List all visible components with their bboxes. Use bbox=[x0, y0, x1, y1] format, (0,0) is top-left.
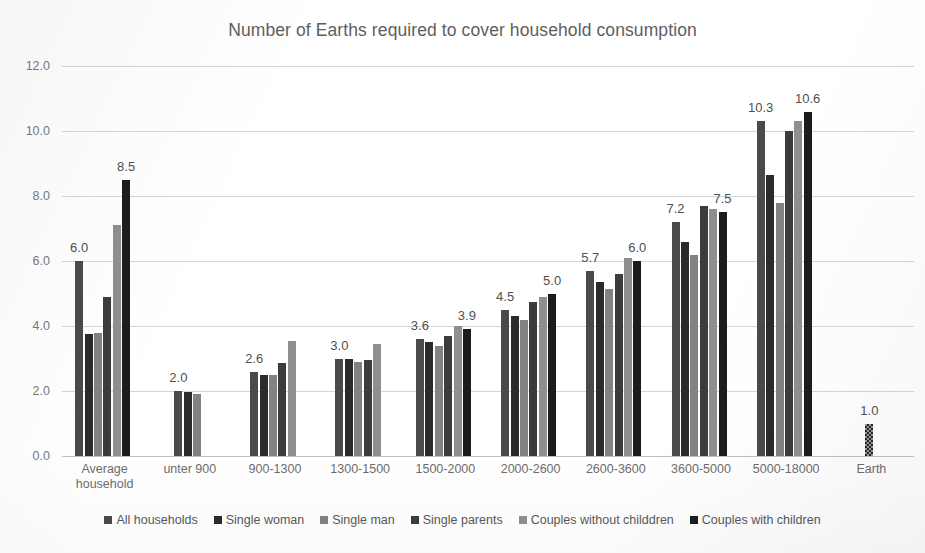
y-axis-tick-label: 12.0 bbox=[26, 59, 50, 73]
legend-item[interactable]: All households bbox=[104, 513, 197, 527]
chart-title: Number of Earths required to cover house… bbox=[0, 20, 925, 41]
x-axis-category-line: 1300-1500 bbox=[312, 462, 408, 477]
x-axis-category-label: 2600-3600 bbox=[568, 462, 664, 477]
legend-item[interactable]: Couples without childdren bbox=[519, 513, 674, 527]
x-axis-category-line: Earth bbox=[823, 462, 919, 477]
x-axis-category-label: unter 900 bbox=[142, 462, 238, 477]
legend-label: Couples with children bbox=[702, 513, 821, 527]
legend-item[interactable]: Couples with children bbox=[690, 513, 821, 527]
legend-label: Single parents bbox=[423, 513, 503, 527]
chart-container: Number of Earths required to cover house… bbox=[0, 0, 925, 553]
x-axis-line bbox=[62, 456, 914, 457]
y-axis-tick-label: 0.0 bbox=[33, 449, 50, 463]
legend-label: Single woman bbox=[226, 513, 305, 527]
legend-swatch-icon bbox=[214, 516, 222, 524]
x-axis-category-label: 2000-2600 bbox=[483, 462, 579, 477]
legend-swatch-icon bbox=[104, 516, 112, 524]
x-axis-category-label: 1300-1500 bbox=[312, 462, 408, 477]
legend-label: Couples without childdren bbox=[531, 513, 674, 527]
y-axis-tick-label: 8.0 bbox=[33, 189, 50, 203]
legend-label: All households bbox=[116, 513, 197, 527]
x-axis: Averagehouseholdunter 900900-13001300-15… bbox=[62, 462, 914, 502]
legend-swatch-icon bbox=[690, 516, 698, 524]
legend-swatch-icon bbox=[519, 516, 527, 524]
y-axis-tick-label: 6.0 bbox=[33, 254, 50, 268]
x-axis-category-label: 1500-2000 bbox=[397, 462, 493, 477]
bar[interactable] bbox=[865, 424, 873, 457]
x-axis-category-label: 3600-5000 bbox=[653, 462, 749, 477]
plot-area: 6.08.52.02.63.03.63.94.55.05.76.07.27.51… bbox=[62, 66, 914, 456]
x-axis-category-line: 3600-5000 bbox=[653, 462, 749, 477]
bar-value-label: 1.0 bbox=[860, 403, 878, 418]
x-axis-category-line: 2600-3600 bbox=[568, 462, 664, 477]
y-axis-tick-label: 10.0 bbox=[26, 124, 50, 138]
legend-item[interactable]: Single parents bbox=[411, 513, 503, 527]
legend-item[interactable]: Single man bbox=[320, 513, 395, 527]
legend-swatch-icon bbox=[411, 516, 419, 524]
bar-group bbox=[62, 66, 914, 456]
x-axis-category-line: 1500-2000 bbox=[397, 462, 493, 477]
chart-legend: All householdsSingle womanSingle manSing… bbox=[0, 513, 925, 527]
x-axis-category-label: 900-1300 bbox=[227, 462, 323, 477]
x-axis-category-label: 5000-18000 bbox=[738, 462, 834, 477]
y-axis: 0.02.04.06.08.010.012.0 bbox=[0, 66, 56, 456]
y-axis-tick-label: 2.0 bbox=[33, 384, 50, 398]
x-axis-category-label: Earth bbox=[823, 462, 919, 477]
y-axis-tick-label: 4.0 bbox=[33, 319, 50, 333]
legend-swatch-icon bbox=[320, 516, 328, 524]
x-axis-category-label: Averagehousehold bbox=[57, 462, 153, 492]
x-axis-category-line: household bbox=[57, 477, 153, 492]
x-axis-category-line: 2000-2600 bbox=[483, 462, 579, 477]
x-axis-category-line: 5000-18000 bbox=[738, 462, 834, 477]
x-axis-category-line: unter 900 bbox=[142, 462, 238, 477]
legend-label: Single man bbox=[332, 513, 395, 527]
x-axis-category-line: Average bbox=[57, 462, 153, 477]
legend-item[interactable]: Single woman bbox=[214, 513, 305, 527]
x-axis-category-line: 900-1300 bbox=[227, 462, 323, 477]
